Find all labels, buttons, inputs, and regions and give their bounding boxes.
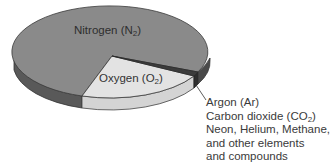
argon-line: Argon (Ar) [206, 96, 330, 110]
other-elements-line: and other elements [206, 137, 330, 151]
nitrogen-label: Nitrogen (N2) [74, 24, 141, 38]
leader-line [196, 85, 206, 100]
compounds-line: and compounds [206, 150, 330, 164]
neon-line: Neon, Helium, Methane, [206, 123, 330, 137]
co2-line: Carbon dioxide (CO2) [206, 110, 330, 124]
other-gases-label: Argon (Ar) Carbon dioxide (CO2) Neon, He… [206, 96, 330, 164]
oxygen-label: Oxygen (O2) [99, 72, 163, 86]
